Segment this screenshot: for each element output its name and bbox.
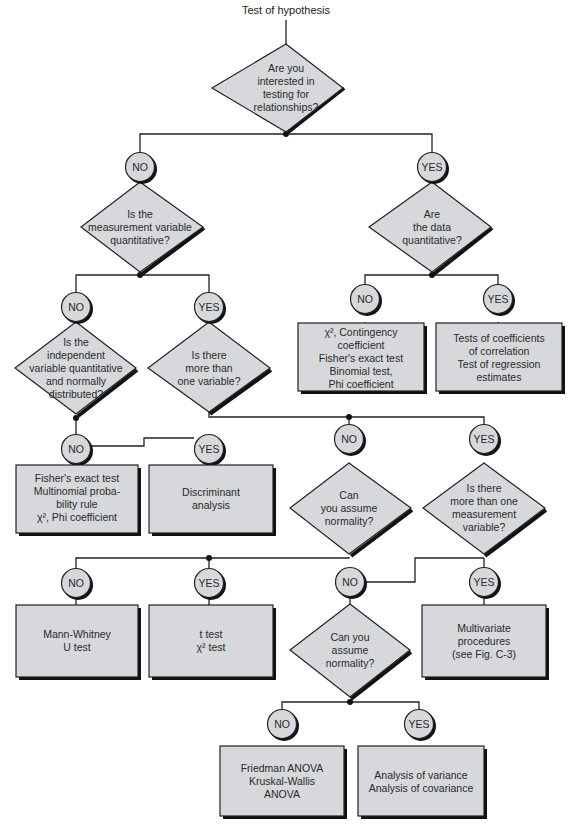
result-chi-contingency: χ², Contingency coefficient Fisher's exa… xyxy=(298,326,424,391)
answer-yes-data-quant: YES xyxy=(478,293,518,306)
decision-more-than-one-measurement: Is there more than one measurement varia… xyxy=(414,482,554,534)
answer-no-independent-var: NO xyxy=(56,443,96,456)
hypothesis-test-flowchart: .ln{stroke:#222;stroke-width:1.3;fill:no… xyxy=(0,0,574,829)
answer-yes-more-than-one-var: YES xyxy=(464,433,504,446)
answer-yes-more-measurement: YES xyxy=(464,576,504,589)
result-multivariate-procedures: Multivariate procedures (see Fig. C-3) xyxy=(422,622,546,661)
result-discriminant-analysis: Discriminant analysis xyxy=(149,486,273,512)
flowchart-title: Test of hypothesis xyxy=(186,4,386,17)
decision-assume-normality-1: Can you assume normality? xyxy=(279,489,419,528)
answer-no-normality-2: NO xyxy=(262,718,302,731)
decision-testing-relationships: Are you interested in testing for relati… xyxy=(216,62,356,114)
answer-no-more-than-one-var: NO xyxy=(329,433,369,446)
result-t-test: t test χ² test xyxy=(149,628,273,654)
result-mann-whitney: Mann-Whitney U test xyxy=(16,628,138,654)
answer-no-relationships: NO xyxy=(120,161,160,174)
decision-assume-normality-2: Can you assume normality? xyxy=(280,631,420,670)
answer-no-normality-1: NO xyxy=(56,577,96,590)
answer-yes-independent-var: YES xyxy=(189,443,229,456)
answer-no-data-quant: NO xyxy=(345,293,385,306)
result-friedman-kruskal: Friedman ANOVA Kruskal-Wallis ANOVA xyxy=(220,762,344,801)
result-analysis-of-variance: Analysis of variance Analysis of covaria… xyxy=(358,769,484,795)
decision-independent-variable: Is the independent variable quantitative… xyxy=(6,336,146,401)
decision-measurement-quantitative: Is the measurement variable quantitative… xyxy=(70,208,210,247)
answer-yes-relationships: YES xyxy=(412,161,452,174)
answer-yes-measurement-quant: YES xyxy=(189,301,229,314)
decision-data-quantitative: Are the data quantitative? xyxy=(362,208,502,247)
result-correlation-regression: Tests of coefficients of correlation Tes… xyxy=(436,332,562,384)
result-fisher-multinomial: Fisher's exact test Multinomial proba- b… xyxy=(16,472,138,524)
answer-yes-normality-2: YES xyxy=(399,718,439,731)
decision-more-than-one-variable: Is there more than one variable? xyxy=(139,349,279,388)
flowchart-graphics: .ln{stroke:#222;stroke-width:1.3;fill:no… xyxy=(0,0,574,829)
answer-no-more-measurement: NO xyxy=(330,576,370,589)
answer-yes-normality-1: YES xyxy=(189,577,229,590)
answer-no-measurement-quant: NO xyxy=(56,301,96,314)
